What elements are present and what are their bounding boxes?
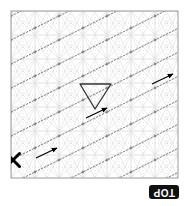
top-orientation-badge: TOP [149,185,179,199]
figure-container: TOP [0,0,190,206]
x-marker [7,154,20,167]
diagram-canvas [0,0,190,206]
